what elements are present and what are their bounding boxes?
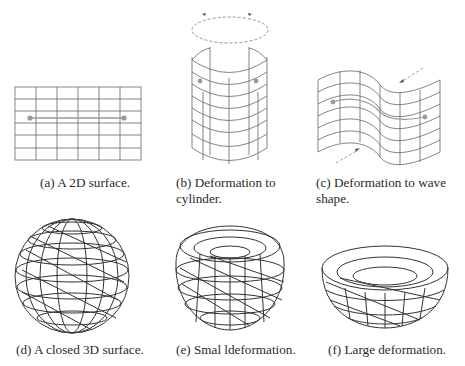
caption-b-line2: cylinder. [176,191,222,207]
caption-a: (a) A 2D surface. [40,175,130,191]
caption-c-line1: (c) Deformation to wave [316,175,446,191]
caption-b-line1: (b) Deformation to [176,175,276,191]
caption-e: (e) Smal ldeformation. [176,342,296,358]
caption-d: (d) A closed 3D surface. [16,342,144,358]
caption-c-line2: shape. [316,191,349,207]
caption-f: (f) Large deformation. [328,342,446,358]
